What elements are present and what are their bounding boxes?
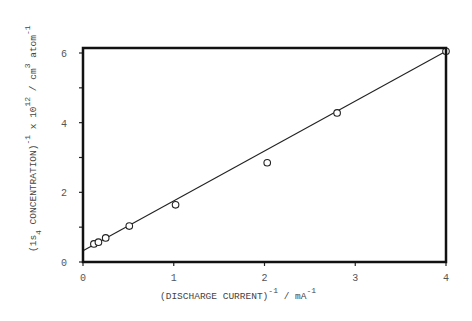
x-tick-label: 1 [171,273,177,284]
fit-line [83,51,446,251]
x-tick-label: 4 [443,273,449,284]
data-point [264,159,271,166]
scatter-chart: 012340246 (DISCHARGE CURRENT)-1 / mA-1 (… [0,0,472,321]
tick-labels: 012340246 [61,49,449,284]
axis-ticks [79,53,446,266]
regression-line [83,51,446,251]
data-point [126,223,133,230]
plot-frame [83,48,446,262]
x-tick-label: 2 [261,273,267,284]
x-tick-label: 3 [352,273,358,284]
data-point [334,110,341,117]
y-tick-label: 0 [61,258,67,269]
y-tick-label: 4 [61,119,67,130]
y-axis-label: (1s4 CONCENTRATION)-1 x 1012 / cm3 atom-… [23,25,43,252]
x-axis-label: (DISCHARGE CURRENT)-1 / mA-1 [160,286,316,302]
y-tick-label: 2 [61,188,67,199]
x-tick-label: 0 [80,273,86,284]
data-point [102,235,109,242]
y-tick-label: 6 [61,49,67,60]
data-point [172,202,179,209]
data-point [95,239,102,246]
